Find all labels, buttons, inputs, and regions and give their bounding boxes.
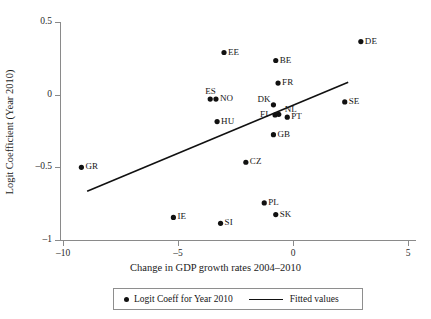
data-point-label: PL xyxy=(268,197,279,207)
data-point-label: DE xyxy=(365,36,377,46)
data-point-marker xyxy=(272,112,277,117)
data-point-label: GR xyxy=(85,161,98,171)
data-point-marker xyxy=(273,212,278,217)
data-point-marker xyxy=(285,115,290,120)
x-tick-marks xyxy=(64,241,409,247)
data-point-marker xyxy=(243,160,248,165)
data-point-marker xyxy=(275,80,280,85)
data-point-marker xyxy=(213,96,218,101)
y-tick-label: 0.5 xyxy=(8,16,52,26)
data-point-label: ES xyxy=(205,86,216,96)
y-axis-title: Logit Coefficient (Year 2010) xyxy=(4,32,15,232)
legend-label-logit-coeff: Logit Coeff for Year 2010 xyxy=(134,294,233,304)
data-point-marker xyxy=(79,165,84,170)
data-point-marker xyxy=(273,58,278,63)
data-point-label: FI xyxy=(260,109,268,119)
data-point-marker xyxy=(218,221,223,226)
data-point-label: CZ xyxy=(250,156,262,166)
data-point-marker xyxy=(271,102,276,107)
data-point-marker xyxy=(358,39,363,44)
data-point-label: PT xyxy=(291,111,302,121)
data-point-marker xyxy=(171,215,176,220)
data-point-marker xyxy=(208,96,213,101)
data-point-marker xyxy=(271,132,276,137)
data-point-label: BE xyxy=(280,55,292,65)
chart-legend: Logit Coeff for Year 2010 Fitted values xyxy=(113,288,363,310)
data-point-label: NO xyxy=(220,93,233,103)
legend-marker-line-icon xyxy=(249,299,283,300)
scatter-plot-figure: 0.50–0.5–1 –10–505 DEEEBEFRESNODKSENLFIP… xyxy=(0,0,431,319)
data-point-marker xyxy=(262,200,267,205)
data-point-label: SE xyxy=(349,96,360,106)
x-tick-label: 5 xyxy=(388,248,428,258)
data-point-label: DK xyxy=(257,94,270,104)
y-tick-marks xyxy=(55,23,61,241)
x-tick-label: –10 xyxy=(43,248,83,258)
data-point-label: IE xyxy=(177,211,186,221)
data-point-label: FR xyxy=(282,77,293,87)
x-tick-label: –5 xyxy=(158,248,198,258)
data-point-marker xyxy=(215,119,220,124)
x-tick-label: 0 xyxy=(273,248,313,258)
data-point-label: EE xyxy=(228,47,239,57)
legend-item-fitted-values: Fitted values xyxy=(249,294,339,304)
legend-marker-dot-icon xyxy=(124,297,129,302)
x-axis-title: Change in GDP growth rates 2004–2010 xyxy=(0,262,431,273)
data-point-label: SI xyxy=(225,217,233,227)
data-point-label: SK xyxy=(280,209,292,219)
data-point-label: HU xyxy=(221,116,234,126)
data-point-markers xyxy=(79,39,364,226)
y-tick-label: –1 xyxy=(8,234,52,244)
legend-item-logit-coeff: Logit Coeff for Year 2010 xyxy=(124,294,233,304)
legend-label-fitted-values: Fitted values xyxy=(290,294,339,304)
data-point-marker xyxy=(342,99,347,104)
data-point-marker xyxy=(221,50,226,55)
data-point-label: GB xyxy=(277,129,290,139)
